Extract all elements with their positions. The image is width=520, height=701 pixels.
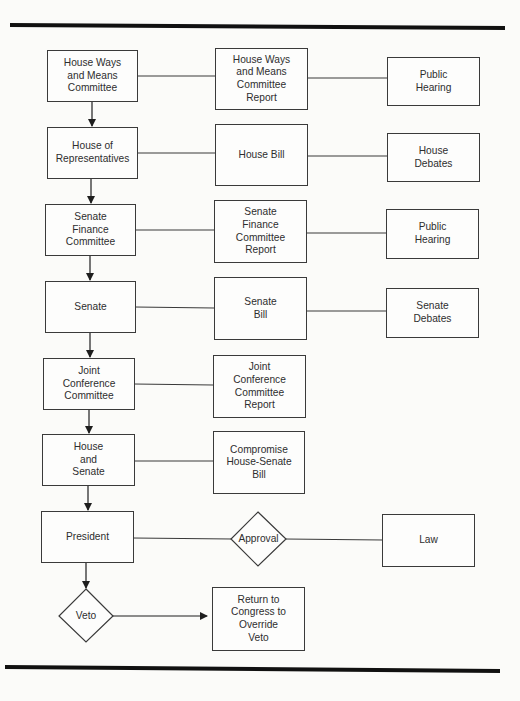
node-house-ways-and-means-report: House Ways and Means Committee Report <box>215 48 308 110</box>
connector-row5-left-middle <box>134 384 213 385</box>
node-joint-conference-report: Joint Conference Committee Report <box>213 355 306 418</box>
connector-approval-law <box>285 539 383 540</box>
node-return-to-congress: Return to Congress to Override Veto <box>212 587 305 651</box>
top-rule <box>10 25 505 28</box>
node-house-and-senate: House and Senate <box>42 434 135 486</box>
node-president: President <box>41 511 134 563</box>
veto-label: Veto <box>59 608 113 624</box>
node-house-ways-and-means-committee: House Ways and Means Committee <box>47 50 138 102</box>
bottom-rule <box>5 667 500 671</box>
node-public-hearing-house: Public Hearing <box>387 57 480 106</box>
connector-president-approval <box>133 538 232 539</box>
node-house-debates: House Debates <box>387 133 480 182</box>
node-house-bill: House Bill <box>215 124 308 186</box>
node-public-hearing-senate: Public Hearing <box>386 209 479 259</box>
node-compromise-bill: Compromise House-Senate Bill <box>213 431 305 494</box>
approval-label: Approval <box>231 531 286 547</box>
node-senate: Senate <box>45 281 136 333</box>
node-joint-conference-committee: Joint Conference Committee <box>43 358 135 410</box>
node-senate-bill: Senate Bill <box>214 277 307 340</box>
connector-row4-left-middle <box>135 307 214 308</box>
node-house-of-representatives: House of Representatives <box>47 127 138 179</box>
node-senate-finance-report: Senate Finance Committee Report <box>214 200 307 263</box>
node-law: Law <box>382 514 475 567</box>
node-senate-finance-committee: Senate Finance Committee <box>45 204 136 256</box>
node-senate-debates: Senate Debates <box>386 288 479 338</box>
